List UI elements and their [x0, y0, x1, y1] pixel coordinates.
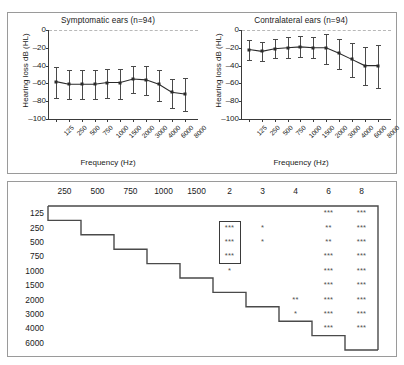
matrix-significance-cell: ***	[342, 295, 382, 304]
contralateral-x-tick-mark	[288, 119, 289, 122]
chart-title-contralateral: Contralateral ears (n=94)	[206, 16, 396, 25]
contralateral-data-point	[273, 47, 276, 50]
symptomatic-x-tick-label: 1000	[115, 124, 130, 139]
contralateral-series-line	[242, 30, 391, 119]
contralateral-x-tick-mark	[275, 119, 276, 122]
symptomatic-data-point	[157, 83, 160, 86]
contralateral-x-tick-label: 1500	[321, 124, 336, 139]
symptomatic-x-tick-mark	[107, 119, 108, 122]
matrix-significance-cell: ***	[342, 237, 382, 246]
symptomatic-x-tick-label: 6000	[179, 124, 194, 139]
contralateral-x-tick-label: 3000	[346, 124, 361, 139]
contralateral-data-point	[376, 64, 379, 67]
symptomatic-x-tick-mark	[56, 119, 57, 122]
symptomatic-x-tick-mark	[146, 119, 147, 122]
symptomatic-y-tick-label: –60	[33, 79, 46, 87]
matrix-significance-cell: ***	[342, 266, 382, 275]
symptomatic-data-point	[106, 81, 109, 84]
matrix-significance-cell: ***	[342, 208, 382, 217]
symptomatic-x-tick-label: 250	[75, 124, 88, 137]
contralateral-x-tick-mark	[339, 119, 340, 122]
contralateral-data-point	[286, 46, 289, 49]
symptomatic-data-point	[55, 80, 58, 83]
contralateral-y-tick-label: –40	[226, 62, 239, 70]
symptomatic-x-tick-label: 1500	[128, 124, 143, 139]
contralateral-x-tick-mark	[365, 119, 366, 122]
symptomatic-y-tick-label: –20	[33, 44, 46, 52]
y-axis-label-symptomatic: Hearing loss dB (HL)	[21, 26, 30, 116]
symptomatic-data-point	[183, 93, 186, 96]
contralateral-x-tick-mark	[249, 119, 250, 122]
symptomatic-x-tick-mark	[172, 119, 173, 122]
matrix-significance-cell: ***	[342, 309, 382, 318]
symptomatic-x-tick-mark	[159, 119, 160, 122]
matrix-significance-cell: *	[243, 237, 283, 246]
symptomatic-y-tick-label: –80	[33, 97, 46, 105]
symptomatic-x-tick-label: 4000	[166, 124, 181, 139]
symptomatic-data-point	[67, 83, 70, 86]
matrix-significance-cell: *	[210, 266, 250, 275]
contralateral-x-tick-mark	[352, 119, 353, 122]
contralateral-data-point	[312, 46, 315, 49]
symptomatic-x-tick-label: 125	[62, 124, 75, 137]
contralateral-y-tick-label: –100	[221, 115, 239, 123]
contralateral-x-tick-mark	[378, 119, 379, 122]
contralateral-x-tick-mark	[300, 119, 301, 122]
symptomatic-x-tick-mark	[69, 119, 70, 122]
y-axis-label-contralateral: Hearing loss dB (HL)	[214, 26, 223, 116]
contralateral-y-tick-label: –60	[226, 79, 239, 87]
symptomatic-series-line	[49, 30, 198, 119]
contralateral-x-tick-label: 2000	[333, 124, 348, 139]
symptomatic-y-tick-label: –100	[28, 115, 46, 123]
symptomatic-x-tick-label: 3000	[153, 124, 168, 139]
contralateral-x-tick-label: 6000	[372, 124, 387, 139]
contralateral-x-tick-label: 4000	[359, 124, 374, 139]
symptomatic-data-point	[132, 77, 135, 80]
symptomatic-data-point	[80, 83, 83, 86]
contralateral-x-tick-mark	[313, 119, 314, 122]
symptomatic-x-tick-mark	[95, 119, 96, 122]
contralateral-x-tick-label: 8000	[385, 124, 400, 139]
symptomatic-x-tick-label: 500	[88, 124, 101, 137]
symptomatic-y-tick-label: –40	[33, 62, 46, 70]
contralateral-data-point	[350, 58, 353, 61]
significance-matrix: 2505007501000150023468125250500750100015…	[14, 186, 390, 354]
matrix-highlight-box	[219, 221, 241, 263]
contralateral-y-tick-label: –80	[226, 97, 239, 105]
contralateral-y-tick-label: 0	[235, 26, 239, 34]
contralateral-x-tick-label: 750	[294, 124, 307, 137]
symptomatic-x-tick-label: 750	[101, 124, 114, 137]
figure-root: Symptomatic ears (n=94) Hearing loss dB …	[0, 0, 404, 365]
contralateral-x-tick-label: 250	[268, 124, 281, 137]
chart-symptomatic: Symptomatic ears (n=94) Hearing loss dB …	[12, 14, 204, 172]
symptomatic-x-tick-mark	[82, 119, 83, 122]
contralateral-y-tick-label: –20	[226, 44, 239, 52]
contralateral-x-tick-label: 1000	[308, 124, 323, 139]
contralateral-y-tick-mark	[239, 119, 242, 120]
matrix-significance-cell: ***	[342, 223, 382, 232]
symptomatic-x-tick-mark	[133, 119, 134, 122]
symptomatic-x-tick-mark	[120, 119, 121, 122]
matrix-significance-cell: *	[243, 223, 283, 232]
symptomatic-data-point	[93, 83, 96, 86]
x-axis-label-symptomatic: Frequency (Hz)	[12, 158, 204, 167]
contralateral-data-point	[337, 52, 340, 55]
contralateral-data-point	[363, 64, 366, 67]
x-axis-label-contralateral: Frequency (Hz)	[206, 158, 396, 167]
symptomatic-data-point	[119, 81, 122, 84]
chart-contralateral: Contralateral ears (n=94) Hearing loss d…	[206, 14, 396, 172]
matrix-significance-cell: ***	[342, 280, 382, 289]
symptomatic-x-tick-label: 2000	[140, 124, 155, 139]
symptomatic-data-point	[144, 78, 147, 81]
contralateral-x-tick-mark	[326, 119, 327, 122]
symptomatic-y-tick-label: 0	[42, 26, 46, 34]
symptomatic-x-tick-mark	[185, 119, 186, 122]
contralateral-data-point	[299, 45, 302, 48]
contralateral-x-tick-label: 500	[281, 124, 294, 137]
plot-area-contralateral: 0–20–40–60–80–10012525050075010001500200…	[241, 30, 391, 120]
plot-area-symptomatic: 0–20–40–60–80–10012525050075010001500200…	[48, 30, 198, 120]
contralateral-x-tick-mark	[262, 119, 263, 122]
matrix-significance-cell: ***	[342, 251, 382, 260]
matrix-significance-cell: ***	[342, 323, 382, 332]
chart-title-symptomatic: Symptomatic ears (n=94)	[12, 16, 204, 25]
